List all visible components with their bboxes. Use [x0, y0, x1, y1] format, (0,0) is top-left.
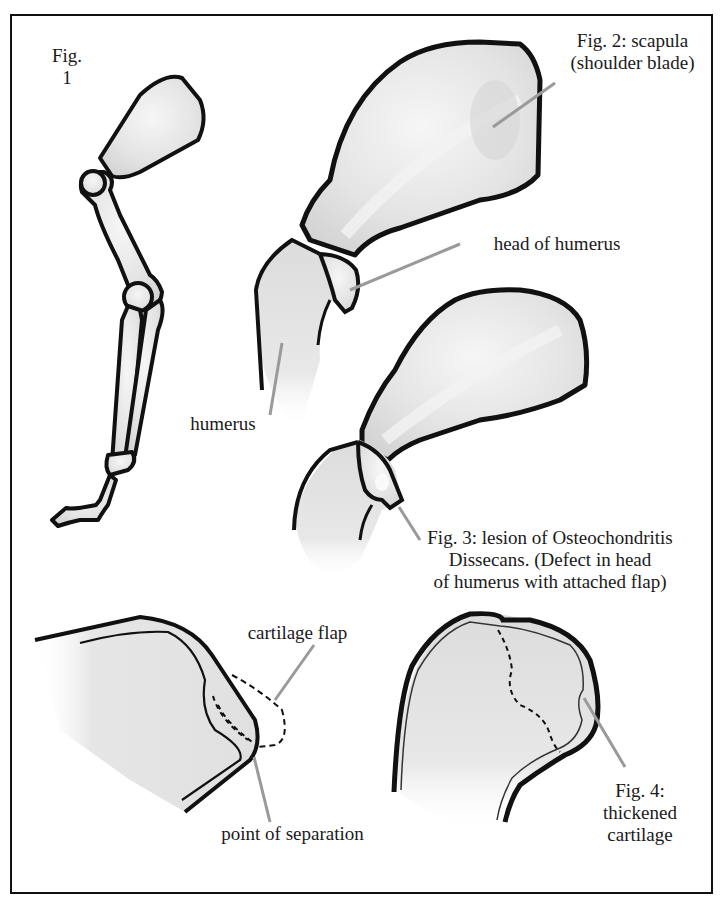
fig2-label: Fig. 2: scapula (shoulder blade)	[555, 30, 710, 74]
humerus-label: humerus	[182, 413, 264, 435]
fig1-label: Fig. 1	[47, 45, 87, 89]
fig1-label-line2: 1	[47, 67, 87, 89]
fig4-label-line2: thickened	[590, 802, 690, 824]
fig3-label-line3: of humerus with attached flap)	[405, 571, 695, 593]
fig2-label-line1: Fig. 2: scapula	[555, 30, 710, 52]
fig2-label-line2: (shoulder blade)	[555, 52, 710, 74]
fig1-label-line1: Fig.	[47, 45, 87, 67]
point-of-separation-label: point of separation	[210, 823, 375, 845]
head-of-humerus-label: head of humerus	[482, 233, 632, 255]
fig4-thickened-cartilage	[394, 614, 598, 830]
fig4-label: Fig. 4: thickened cartilage	[590, 780, 690, 846]
fig3-label-line1: Fig. 3: lesion of Osteochondritis	[405, 527, 695, 549]
fig3-label: Fig. 3: lesion of Osteochondritis Dissec…	[405, 527, 695, 593]
cartilage-flap-label: cartilage flap	[240, 622, 355, 644]
fig3-label-line2: Dissecans. (Defect in head	[405, 549, 695, 571]
cartilage-flap-detail	[35, 617, 285, 812]
fig4-label-line1: Fig. 4:	[590, 780, 690, 802]
fig4-label-line3: cartilage	[590, 824, 690, 846]
anatomy-illustration	[0, 0, 726, 912]
fig1-leg-skeleton	[52, 77, 204, 526]
